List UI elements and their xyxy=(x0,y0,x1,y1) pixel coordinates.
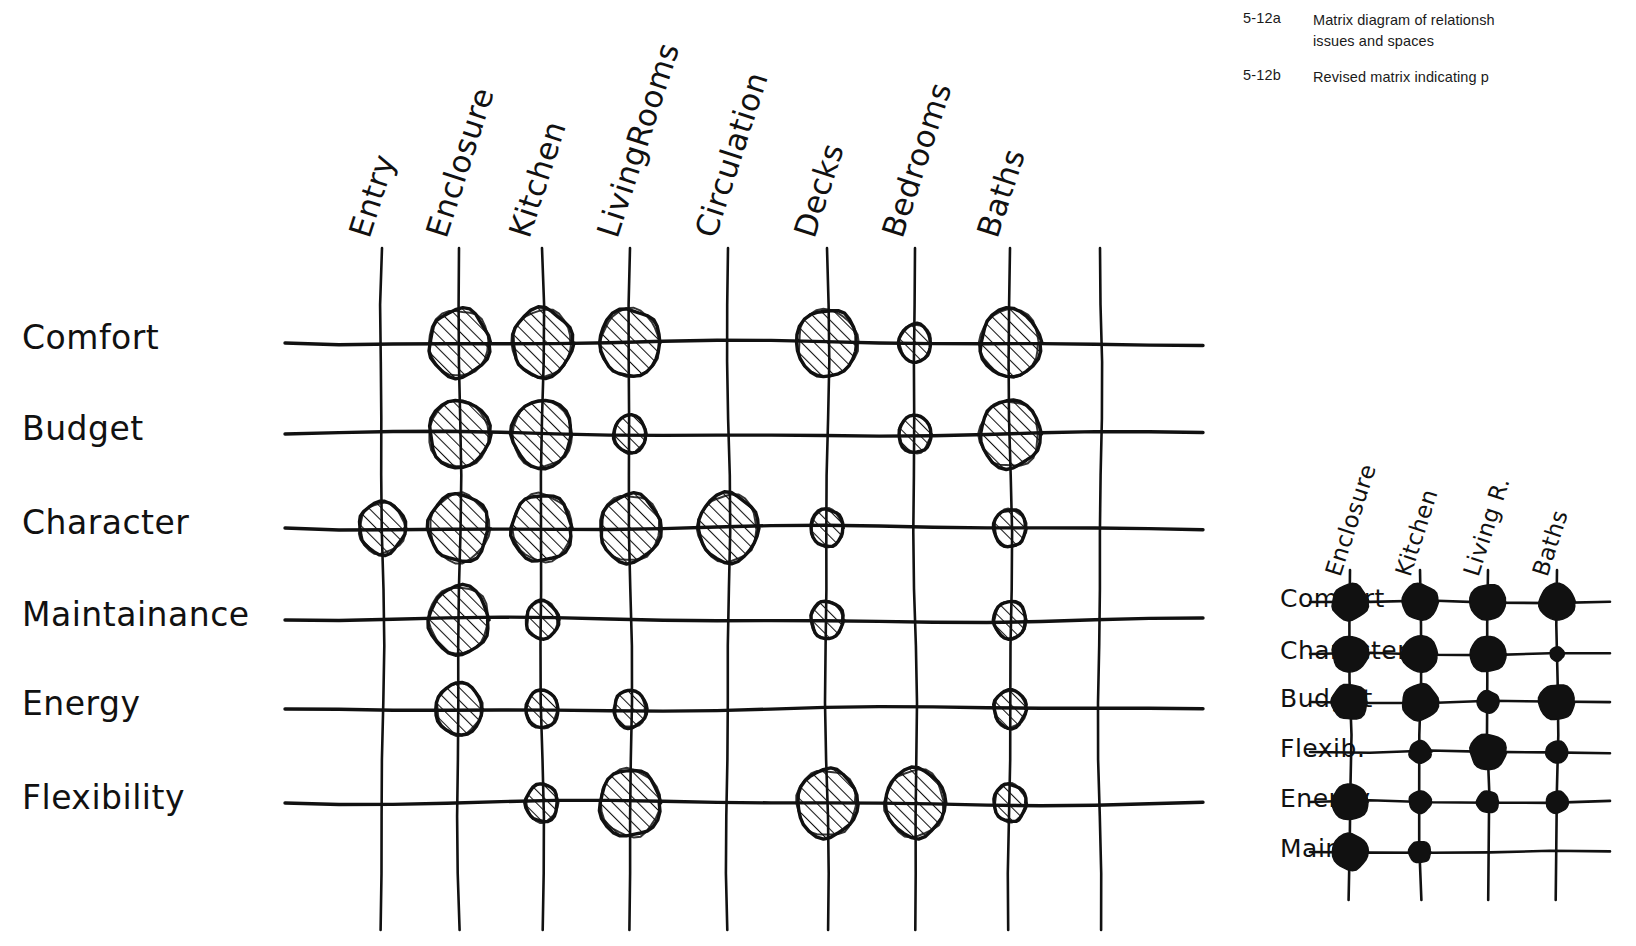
matrix-a-cell-mark xyxy=(994,783,1027,823)
matrix-b-row-label: Budget xyxy=(1280,686,1373,711)
matrix-a-cell-mark xyxy=(898,323,931,362)
matrix-a-cell-mark xyxy=(427,492,490,563)
matrix-a-cell-mark xyxy=(511,400,573,468)
matrix-a-cell-mark xyxy=(599,768,660,838)
matrix-b-labels: ComfortCharacterBudgetFlexib.EnergyMaint… xyxy=(1280,450,1636,946)
matrix-b-row-label: Character xyxy=(1280,638,1408,663)
matrix-b-column-label: Living R. xyxy=(1460,474,1514,579)
matrix-a-cell-mark xyxy=(797,309,859,377)
matrix-b-column-label: Kitchen xyxy=(1392,486,1442,579)
matrix-a-cell-mark xyxy=(436,682,483,736)
matrix-b-column-label: Enclosure xyxy=(1322,461,1380,579)
matrix-a-cell-mark xyxy=(429,308,491,379)
matrix-b-row-label: Flexib. xyxy=(1280,736,1365,761)
matrix-a-cell-mark xyxy=(525,783,559,823)
matrix-a-cell-mark xyxy=(511,307,574,379)
matrix-a-cell-mark xyxy=(811,601,844,639)
matrix-a-cell-mark xyxy=(979,308,1042,378)
matrix-a-cell-mark xyxy=(811,508,844,547)
matrix-a-cell-mark xyxy=(526,600,559,639)
matrix-a-cell-mark xyxy=(600,308,661,377)
figure-page: 5-12a Matrix diagram of relationsh issue… xyxy=(0,0,1636,946)
matrix-a-cell-mark xyxy=(978,400,1041,470)
matrix-a-cell-mark xyxy=(994,690,1027,729)
matrix-a-cell-mark xyxy=(429,400,491,468)
matrix-a-cell-mark xyxy=(796,768,858,839)
matrix-a-cell-mark xyxy=(511,493,572,563)
matrix-a-cell-mark xyxy=(993,601,1026,639)
matrix-a-cell-mark xyxy=(613,690,647,728)
matrix-a-cell-mark xyxy=(614,415,647,454)
matrix-a-cell-mark xyxy=(359,501,406,555)
matrix-a-cell-mark xyxy=(600,493,661,564)
matrix-b: ComfortCharacterBudgetFlexib.EnergyMaint… xyxy=(1280,450,1636,946)
matrix-b-row-label: Energy xyxy=(1280,786,1371,811)
matrix-a-cell-mark xyxy=(884,767,946,839)
matrix-a-cell-mark xyxy=(697,492,759,564)
matrix-b-row-label: Maint. xyxy=(1280,836,1360,861)
matrix-b-column-label: Baths xyxy=(1529,507,1572,579)
matrix-a-cell-mark xyxy=(899,415,932,454)
matrix-a-cell-mark xyxy=(428,584,489,655)
matrix-a-cell-mark xyxy=(993,509,1027,547)
matrix-a-cell-mark xyxy=(526,690,559,729)
matrix-b-row-label: Comfort xyxy=(1280,586,1385,611)
